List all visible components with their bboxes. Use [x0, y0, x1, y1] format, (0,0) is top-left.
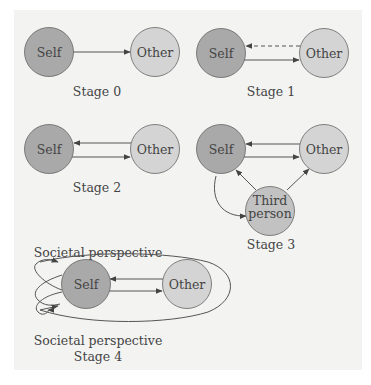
- other-label: Other: [137, 45, 174, 60]
- societal-lower-loop-arrow: [36, 292, 62, 314]
- self-label: Self: [37, 142, 63, 157]
- stage-label: Stage 2: [73, 180, 121, 195]
- self-label: Self: [209, 46, 235, 61]
- self-label: Self: [74, 277, 100, 292]
- societal-perspective-top-label: Societal perspective: [34, 245, 163, 260]
- self-label: Self: [37, 45, 63, 60]
- stage-label: Stage 3: [247, 237, 295, 252]
- perspective-taking-diagram: Self Other Stage 0 Self Other Stage 1 Se…: [0, 0, 371, 385]
- stage-label: Stage 4: [74, 349, 122, 364]
- self-label: Self: [209, 142, 235, 157]
- other-label: Other: [306, 46, 343, 61]
- other-label: Other: [137, 142, 174, 157]
- other-label: Other: [169, 277, 206, 292]
- arrow-third-to-self: [236, 170, 256, 190]
- stage-label: Stage 1: [247, 84, 295, 99]
- other-label: Other: [306, 142, 343, 157]
- societal-perspective-bottom-label: Societal perspective: [34, 333, 163, 348]
- stage-3: Self Other Third person Stage 3: [197, 125, 349, 253]
- curved-arrow-self-to-third: [214, 176, 246, 216]
- arrow-third-to-other: [287, 169, 309, 190]
- stage-1: Self Other Stage 1: [197, 29, 349, 100]
- societal-middle-loop: [35, 275, 62, 305]
- societal-bottom-arrow: [40, 306, 58, 310]
- stage-0: Self Other Stage 0: [25, 28, 180, 100]
- stage-2: Self Other Stage 2: [25, 125, 180, 196]
- stage-label: Stage 0: [73, 84, 121, 99]
- societal-upper-loop-arrow: [35, 260, 62, 290]
- third-person-label-line2: person: [248, 206, 291, 221]
- stage-4: Societal perspective Self Other Societal…: [34, 245, 231, 364]
